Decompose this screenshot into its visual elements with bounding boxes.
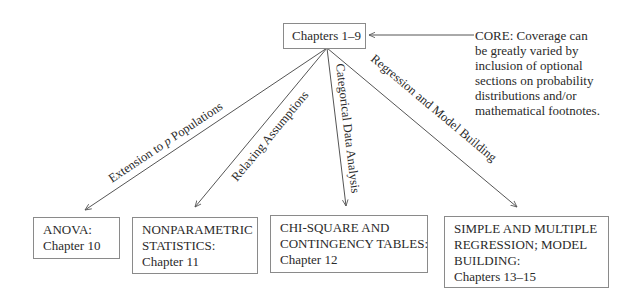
node-line: CONTINGENCY TABLES: <box>280 236 418 252</box>
node-anova: ANOVA: Chapter 10 <box>33 217 120 259</box>
core-note-line: inclusion of optional <box>475 58 629 73</box>
root-node: Chapters 1–9 <box>283 23 366 49</box>
node-line: BUILDING: <box>454 253 599 269</box>
node-regression: SIMPLE AND MULTIPLE REGRESSION; MODEL BU… <box>444 216 609 288</box>
node-line: REGRESSION; MODEL <box>454 237 599 253</box>
node-line: NONPARAMETRIC <box>142 222 248 238</box>
root-node-label: Chapters 1–9 <box>292 27 357 45</box>
edge-label-categorical: Categorical Data Analysis <box>333 63 363 194</box>
core-note-line: sections on probability <box>475 73 629 88</box>
node-line: Chapters 13–15 <box>454 269 599 285</box>
core-note-line: CORE: Coverage can <box>475 28 629 43</box>
arrow-to-nonparametric <box>195 48 327 207</box>
core-note-line: distributions and/or <box>475 88 629 103</box>
core-note-line: be greatly varied by <box>475 43 629 58</box>
node-line: ANOVA: <box>43 222 110 238</box>
node-nonparametric: NONPARAMETRIC STATISTICS: Chapter 11 <box>132 217 258 274</box>
arrow-to-anova <box>85 48 327 210</box>
node-line: STATISTICS: <box>142 238 248 254</box>
node-line: Chapter 10 <box>43 238 110 254</box>
node-line: SIMPLE AND MULTIPLE <box>454 221 599 237</box>
core-note: CORE: Coverage can be greatly varied by … <box>475 28 629 118</box>
node-line: CHI-SQUARE AND <box>280 220 418 236</box>
node-line: Chapter 11 <box>142 254 248 270</box>
edge-label-extension: Extension to p Populations <box>106 99 226 185</box>
node-line: Chapter 12 <box>280 252 418 268</box>
core-note-line: mathematical footnotes. <box>475 103 629 118</box>
node-chi-square: CHI-SQUARE AND CONTINGENCY TABLES: Chapt… <box>270 215 428 273</box>
edge-label-relaxing: Relaxing Assumptions <box>229 88 312 184</box>
